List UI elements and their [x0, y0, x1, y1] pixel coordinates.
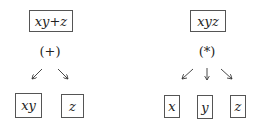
arrow-down-left-icon	[32, 69, 42, 79]
arrow-down-right-icon	[58, 69, 68, 79]
tree-arrows	[0, 0, 266, 128]
arrow-down-left-icon	[182, 69, 193, 79]
arrow-down-right-icon	[221, 69, 232, 79]
